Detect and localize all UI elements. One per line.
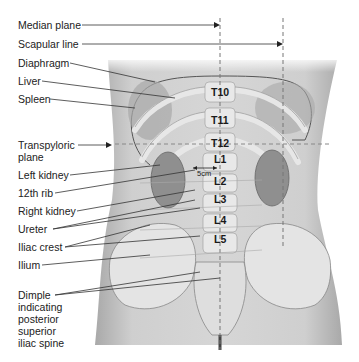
vertebra-l4: L4	[214, 214, 226, 226]
label-diaphragm: Diaphragm	[18, 57, 69, 69]
label-transpyloric: Transpyloric	[18, 139, 75, 151]
vertebra-l1: L1	[214, 153, 226, 165]
label-left-kidney: Left kidney	[18, 169, 69, 181]
vertebra-l5: L5	[214, 233, 226, 245]
label-12th-rib: 12th rib	[18, 187, 53, 199]
anatomy-diagram: Median plane Scapular line Diaphragm Liv…	[0, 0, 359, 362]
label-scapular-line: Scapular line	[18, 38, 79, 50]
vertebra-t12: T12	[211, 137, 229, 149]
label-dimple-line-2: posterior	[18, 313, 59, 325]
label-liver: Liver	[18, 75, 41, 87]
label-median-plane: Median plane	[18, 19, 81, 31]
measure-5cm: 5cm	[197, 169, 211, 178]
label-spleen: Spleen	[18, 93, 51, 105]
label-iliac-crest: Iliac crest	[18, 241, 62, 253]
label-dimple: Dimple	[18, 289, 51, 301]
label-right-kidney: Right kidney	[18, 205, 76, 217]
label-ilium: Ilium	[18, 259, 40, 271]
vertebra-l3: L3	[214, 193, 226, 205]
vertebra-t10: T10	[211, 86, 229, 98]
vertebra-t11: T11	[211, 114, 229, 126]
label-transpyloric-plane: plane	[18, 151, 44, 163]
label-dimple-line-1: indicating	[18, 301, 62, 313]
label-ureter: Ureter	[18, 223, 47, 235]
label-dimple-line-4: iliac spine	[18, 337, 64, 349]
label-dimple-line-3: superior	[18, 325, 56, 337]
vertebra-l2: L2	[214, 175, 226, 187]
